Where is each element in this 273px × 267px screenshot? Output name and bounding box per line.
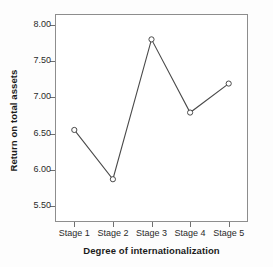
data-line <box>74 39 228 179</box>
x-axis-title: Degree of internationalization <box>55 245 248 256</box>
data-point-marker <box>110 177 115 182</box>
y-tick-label: 6.00 <box>5 164 51 174</box>
chart-figure: Return on total assets 5.506.006.507.007… <box>0 0 273 267</box>
y-tick-label: 6.50 <box>5 128 51 138</box>
y-tick-label: 8.00 <box>5 19 51 29</box>
data-point-marker <box>72 127 77 132</box>
y-axis-ticks: 5.506.006.507.007.508.00 <box>0 0 51 267</box>
plot-area <box>55 14 248 222</box>
x-tick-label: Stage 5 <box>203 228 255 238</box>
data-point-marker <box>149 37 154 42</box>
data-point-marker <box>188 110 193 115</box>
x-tick-mark <box>152 222 153 227</box>
y-tick-label: 5.50 <box>5 200 51 210</box>
y-tick-label: 7.00 <box>5 91 51 101</box>
x-tick-mark <box>229 222 230 227</box>
x-tick-mark <box>113 222 114 227</box>
x-tick-mark <box>190 222 191 227</box>
data-markers <box>72 37 232 182</box>
data-point-marker <box>226 81 231 86</box>
y-tick-label: 7.50 <box>5 55 51 65</box>
x-tick-mark <box>74 222 75 227</box>
